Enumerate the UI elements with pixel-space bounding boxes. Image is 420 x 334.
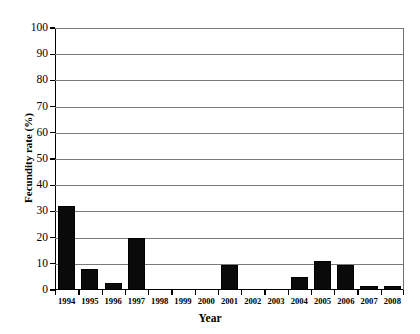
- y-tick-label: 0: [4, 284, 48, 296]
- fecundity-rate-bar-chart: Fecundity rate (%) 010203040506070809010…: [0, 0, 420, 334]
- x-tick-mark: [264, 290, 265, 295]
- bar-1995: [81, 269, 98, 290]
- y-tick-label: 50: [4, 153, 48, 165]
- x-tick-mark: [218, 290, 219, 295]
- y-tick-label: 90: [4, 48, 48, 60]
- y-tick-label: 10: [4, 258, 48, 270]
- x-tick-mark: [171, 290, 172, 295]
- bar-1996: [105, 283, 122, 290]
- y-tick-label: 70: [4, 101, 48, 113]
- x-tick-mark: [125, 290, 126, 295]
- y-tick-label: 20: [4, 232, 48, 244]
- bar-2005: [314, 261, 331, 290]
- bar-2006: [337, 265, 354, 290]
- bar-1994: [58, 206, 75, 290]
- x-tick-mark: [403, 290, 404, 295]
- x-tick-mark: [357, 290, 358, 295]
- x-tick-mark: [148, 290, 149, 295]
- bar-2007: [360, 286, 377, 290]
- x-tick-mark: [195, 290, 196, 295]
- x-tick-mark: [381, 290, 382, 295]
- y-tick-label: 100: [4, 22, 48, 34]
- x-tick-mark: [288, 290, 289, 295]
- x-tick-mark: [102, 290, 103, 295]
- x-tick-mark: [55, 290, 56, 295]
- y-tick-label: 30: [4, 205, 48, 217]
- y-tick-label: 40: [4, 179, 48, 191]
- bar-2004: [291, 277, 308, 290]
- y-tick-label: 80: [4, 74, 48, 86]
- bar-1997: [128, 238, 145, 290]
- y-tick-label: 60: [4, 127, 48, 139]
- x-tick-mark: [78, 290, 79, 295]
- bar-2008: [384, 286, 401, 290]
- bar-2001: [221, 265, 238, 290]
- x-axis-title: Year: [0, 312, 420, 324]
- x-tick-mark: [311, 290, 312, 295]
- bars-series: [55, 28, 404, 290]
- x-tick-mark: [241, 290, 242, 295]
- x-tick-mark: [334, 290, 335, 295]
- x-tick-label-2008: 2008: [375, 296, 409, 306]
